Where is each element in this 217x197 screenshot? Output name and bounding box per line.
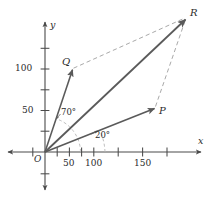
vector-diagram-canvas bbox=[0, 0, 217, 197]
point-label-R: R bbox=[190, 8, 198, 18]
y-tick-label-100: 100 bbox=[15, 64, 32, 73]
vectors-group bbox=[45, 20, 186, 153]
construction-lines-group bbox=[74, 18, 186, 106]
y-tick-label-50: 50 bbox=[22, 106, 33, 115]
angle-label-70: 70° bbox=[61, 108, 76, 117]
dashed-line-QR bbox=[74, 18, 185, 68]
point-label-Q: Q bbox=[62, 57, 70, 67]
vector-OR bbox=[45, 20, 186, 153]
angle-label-20: 20° bbox=[95, 131, 110, 140]
x-axis-label: x bbox=[198, 136, 203, 146]
vector-diagram-figure: x y O 50 100 150 50 100 Q P R 70° 20° bbox=[0, 0, 217, 197]
point-label-P: P bbox=[159, 106, 166, 116]
axes-group bbox=[8, 22, 201, 190]
angle-leader-arrows bbox=[56, 114, 98, 134]
x-tick-label-100: 100 bbox=[85, 159, 102, 168]
y-axis-label: y bbox=[50, 20, 55, 30]
origin-label: O bbox=[34, 155, 41, 164]
x-tick-label-50: 50 bbox=[63, 159, 74, 168]
x-tick-label-150: 150 bbox=[134, 159, 151, 168]
